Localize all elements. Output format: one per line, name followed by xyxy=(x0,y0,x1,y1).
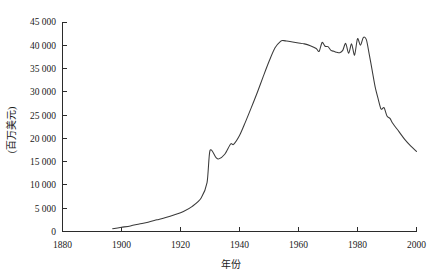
y-tick-label: 10 000 xyxy=(30,180,56,190)
y-tick-label: 25 000 xyxy=(30,111,56,121)
x-tick-label: 2000 xyxy=(407,240,426,250)
y-tick-label: 5 000 xyxy=(35,204,57,214)
y-axis-tick-labels: 05 00010 00015 00020 00025 00030 00035 0… xyxy=(30,17,56,237)
x-tick-label: 1940 xyxy=(230,240,249,250)
x-axis-title: 年份 xyxy=(221,258,241,270)
y-tick-label: 20 000 xyxy=(30,134,56,144)
chart-container: 05 00010 00015 00020 00025 00030 00035 0… xyxy=(0,0,440,280)
line-chart: 05 00010 00015 00020 00025 00030 00035 0… xyxy=(0,0,440,280)
y-axis-tick-marks xyxy=(63,22,68,232)
y-tick-label: 35 000 xyxy=(30,64,56,74)
y-tick-label: 45 000 xyxy=(30,17,56,27)
x-tick-label: 1880 xyxy=(53,240,72,250)
x-axis-tick-labels: 1880190019201940196019802000 xyxy=(53,240,426,250)
x-tick-label: 1920 xyxy=(171,240,190,250)
x-tick-label: 1960 xyxy=(289,240,308,250)
x-tick-label: 1980 xyxy=(348,240,367,250)
y-axis-title: (百万美元) xyxy=(5,107,18,154)
y-tick-label: 40 000 xyxy=(30,41,56,51)
y-tick-label: 0 xyxy=(51,227,56,237)
x-axis-tick-marks xyxy=(63,227,417,232)
y-tick-label: 30 000 xyxy=(30,87,56,97)
y-tick-label: 15 000 xyxy=(30,157,56,167)
data-series-line xyxy=(113,37,417,229)
x-tick-label: 1900 xyxy=(112,240,131,250)
